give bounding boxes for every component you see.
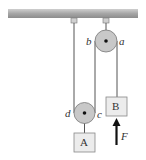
label-a: a xyxy=(119,36,125,47)
ceiling-bar xyxy=(8,9,138,18)
label-f: F xyxy=(121,131,128,142)
lower-pulley xyxy=(74,103,95,124)
block-a-label: A xyxy=(80,137,88,148)
label-b: b xyxy=(86,36,92,47)
hook-right xyxy=(103,18,109,23)
upper-pulley xyxy=(95,30,117,52)
label-c: c xyxy=(97,109,102,120)
label-d: d xyxy=(65,108,71,119)
force-arrow-icon xyxy=(113,118,121,145)
block-b-label: B xyxy=(112,101,119,112)
hook-left xyxy=(71,18,77,23)
